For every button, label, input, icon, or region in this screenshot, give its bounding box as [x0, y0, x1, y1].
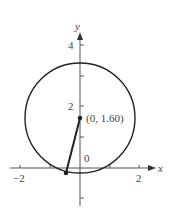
- center-point: [78, 116, 83, 121]
- y-tick-label-2: 2: [68, 100, 74, 112]
- radius-segment: [66, 118, 80, 173]
- origin-label: 0: [84, 152, 90, 164]
- x-axis-label: x: [157, 162, 163, 174]
- circle-point: [64, 171, 69, 176]
- y-axis-arrow-icon: [77, 32, 83, 40]
- center-point-label: (0, 1.60): [86, 112, 124, 125]
- x-axis-arrow-icon: [148, 165, 156, 171]
- y-tick-label-4: 4: [68, 39, 74, 51]
- y-axis-label: y: [74, 20, 80, 32]
- x-tick-label-2: 2: [136, 172, 142, 184]
- x-tick-label-neg2: −2: [13, 172, 25, 184]
- diagram-canvas: y x 4 2 −2 2 0 (0, 1.60): [0, 0, 179, 214]
